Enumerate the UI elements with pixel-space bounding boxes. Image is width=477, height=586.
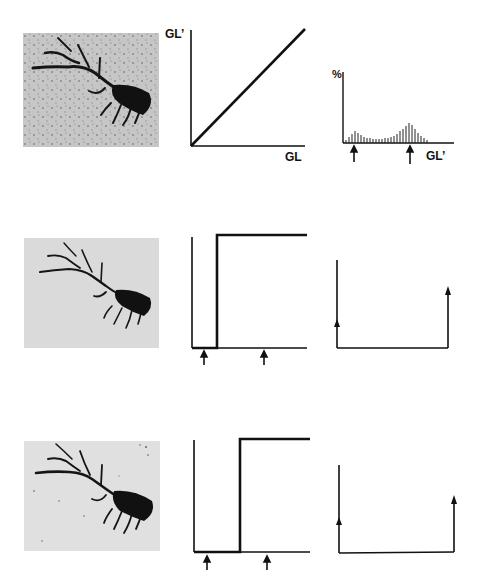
binary-histogram-chart-2 — [330, 460, 477, 560]
lake-silhouette-icon — [24, 238, 159, 348]
threshold-transfer-chart-1 — [165, 225, 315, 370]
identity-transfer-chart: GL’ GL — [165, 22, 315, 162]
y-axis-label: % — [332, 68, 342, 80]
lake-silhouette-icon — [24, 441, 160, 551]
original-histogram-chart: % GL’ — [330, 60, 477, 170]
x-axis-label: GL — [285, 150, 302, 164]
thresholded-photo-1 — [24, 238, 159, 348]
original-photo — [23, 33, 159, 147]
thresholded-photo-2 — [24, 441, 160, 551]
binary-histogram-chart-1 — [330, 255, 477, 355]
y-axis-label: GL’ — [165, 27, 184, 41]
lake-silhouette-icon — [23, 33, 159, 147]
x-axis-label: GL’ — [426, 149, 445, 163]
threshold-transfer-chart-2 — [165, 430, 315, 580]
